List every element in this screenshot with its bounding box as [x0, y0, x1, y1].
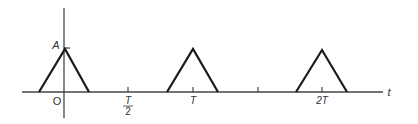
- pulse-train-diagram: A O t T 2 T 2T: [0, 0, 418, 124]
- tick-label-half-period-numerator: T: [125, 95, 132, 106]
- tick-label-half-period-denominator: 2: [125, 106, 131, 117]
- pulse-1: [167, 49, 218, 92]
- time-axis-label: t: [387, 86, 391, 98]
- tick-label-period: T: [190, 95, 197, 106]
- amplitude-label: A: [51, 39, 59, 51]
- pulse-2: [296, 50, 347, 92]
- origin-label: O: [53, 95, 62, 107]
- tick-label-two-period: 2T: [315, 95, 329, 106]
